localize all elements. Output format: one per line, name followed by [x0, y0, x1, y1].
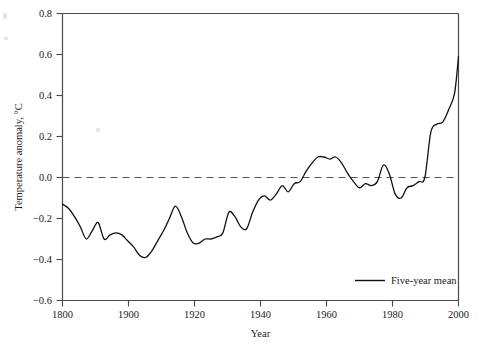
y-axis-ticks — [57, 14, 63, 301]
x-tick-label: 1900 — [118, 309, 139, 320]
plot-frame — [63, 14, 459, 301]
x-tick-label: 1960 — [316, 309, 337, 320]
y-axis-title: Temperature anomaly, °C — [13, 103, 24, 210]
x-tick-label: 1940 — [250, 309, 271, 320]
scan-artifact-icon — [96, 128, 100, 132]
x-tick-label: 1980 — [382, 309, 403, 320]
y-tick-label: 0.8 — [39, 8, 52, 19]
legend: Five-year mean — [355, 275, 457, 286]
y-tick-label: −0.2 — [33, 213, 52, 224]
x-tick-labels: 1800 1900 1920 1940 1960 1980 2000 — [52, 309, 469, 320]
x-axis-title: Year — [251, 328, 271, 339]
scan-artifact-icon — [4, 37, 8, 40]
temperature-anomaly-chart: 0.8 0.6 0.4 0.2 0.0 −0.2 −0.4 −0.6 1800 … — [0, 0, 479, 348]
y-tick-label: −0.6 — [33, 295, 52, 306]
y-tick-labels: 0.8 0.6 0.4 0.2 0.0 −0.2 −0.4 −0.6 — [33, 8, 53, 306]
x-axis-ticks — [63, 301, 459, 307]
scan-artifact-icon — [3, 13, 7, 19]
x-tick-label: 1920 — [184, 309, 205, 320]
y-tick-label: −0.4 — [33, 254, 53, 265]
five-year-mean-line — [63, 57, 459, 258]
x-tick-label: 2000 — [448, 309, 469, 320]
legend-label: Five-year mean — [391, 275, 457, 286]
y-tick-label: 0.2 — [39, 131, 52, 142]
chart-figure: 0.8 0.6 0.4 0.2 0.0 −0.2 −0.4 −0.6 1800 … — [0, 0, 479, 348]
x-tick-label: 1800 — [52, 309, 73, 320]
y-tick-label: 0.6 — [39, 49, 52, 60]
y-tick-label: 0.0 — [39, 172, 52, 183]
y-tick-label: 0.4 — [39, 90, 53, 101]
